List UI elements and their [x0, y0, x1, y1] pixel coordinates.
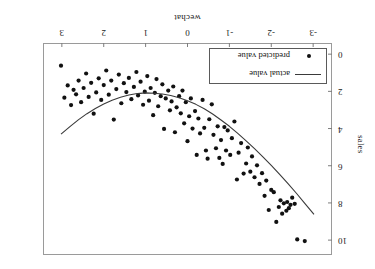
x-tick-label: 1	[126, 28, 166, 38]
legend-entry-actual-value: actual value	[208, 65, 326, 83]
legend-label-predicted-value: predicted value	[238, 51, 290, 61]
legend-label-actual-value: actual value	[249, 69, 290, 79]
legend-entry-predicted-value: predicted value	[208, 47, 326, 65]
line-marker-icon	[290, 65, 326, 83]
x-tick-label: 0	[168, 28, 208, 38]
y-tick-label: 0	[338, 50, 362, 60]
x-tick-label: -1	[209, 28, 249, 38]
y-tick-label: 2	[338, 87, 362, 97]
x-tick-label: -2	[251, 28, 291, 38]
chart-legend: actual value predicted value	[209, 48, 327, 84]
y-tick-label: 8	[338, 199, 362, 209]
y-tick-label: 10	[338, 236, 362, 246]
y-tick-label: 4	[338, 125, 362, 135]
x-tick-label: 2	[84, 28, 124, 38]
x-tick-label: 3	[42, 28, 82, 38]
chart-figure: wechat sales actual value predicted valu…	[0, 0, 375, 269]
chart-canvas	[0, 0, 375, 269]
y-tick-label: 6	[338, 162, 362, 172]
x-tick-label: -3	[293, 28, 333, 38]
x-axis-label: wechat	[0, 13, 375, 23]
dot-marker-icon	[290, 47, 326, 65]
y-axis-label: sales	[356, 135, 366, 154]
